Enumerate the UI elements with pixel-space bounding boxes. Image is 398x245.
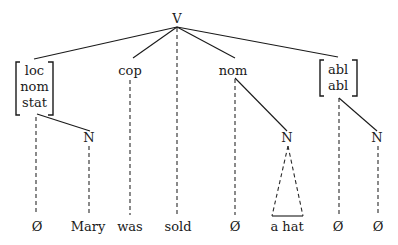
syntax-tree-diagram: V loc nom stat cop nom abl abl N N N (0, 0, 398, 245)
terminal-null-3: Ø (333, 219, 344, 234)
triangle-left-side (272, 146, 288, 216)
terminal-null-1: Ø (32, 219, 43, 234)
terminal-a-hat: a hat (270, 219, 304, 234)
feature-nom: nom (20, 79, 49, 94)
terminal-was: was (117, 219, 143, 234)
terminal-null-4: Ø (373, 219, 384, 234)
edge-v-nom (177, 27, 235, 58)
feature-bundle-abl-abl: abl abl (320, 60, 357, 96)
triangle-right-side (288, 146, 303, 216)
terminal-null-2: Ø (230, 219, 241, 234)
node-v: V (171, 11, 182, 26)
feature-bundle-loc-nom-stat: loc nom stat (16, 62, 53, 115)
edge-case4-n3 (339, 98, 377, 131)
edge-case1-n1 (37, 114, 90, 131)
node-n-mary: N (83, 130, 94, 145)
edge-v-case1 (34, 27, 177, 59)
feature-loc: loc (25, 63, 44, 78)
feature-abl-1: abl (328, 62, 348, 77)
node-n-a-hat: N (281, 130, 292, 145)
feature-stat: stat (22, 95, 48, 110)
triangle-a-hat (272, 146, 303, 216)
node-nom: nom (219, 63, 248, 78)
edge-v-case4 (177, 27, 338, 57)
node-n-abl: N (371, 130, 382, 145)
terminal-sold: sold (165, 219, 192, 234)
terminal-mary: Mary (71, 219, 106, 234)
node-cop: cop (118, 63, 141, 78)
feature-abl-2: abl (328, 78, 348, 93)
left-bracket (320, 60, 324, 96)
edge-nom-n2 (235, 78, 287, 131)
right-bracket (352, 60, 357, 96)
